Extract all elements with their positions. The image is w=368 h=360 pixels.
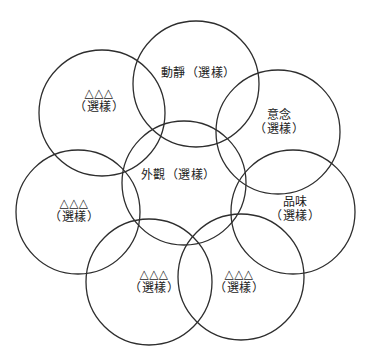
placeholder-left-label-line-2: （選樣） <box>49 210 99 224</box>
appearance-label: 外觀（選樣） <box>141 168 216 182</box>
appearance-label-line-1: 外觀（選樣） <box>141 168 216 182</box>
placeholder-left-label-line-1: △△△ <box>49 196 99 210</box>
placeholder-upper-left-label-line-1: △△△ <box>74 86 124 100</box>
placeholder-bottom-left-label-line-1: △△△ <box>129 267 179 281</box>
placeholder-bottom-right-label: △△△（選樣） <box>214 267 264 295</box>
idea-label-line-2: （選樣） <box>254 122 304 136</box>
motion-label: 動靜（選樣） <box>161 66 236 80</box>
motion-label-line-1: 動靜（選樣） <box>161 66 236 80</box>
placeholder-bottom-left-label-line-2: （選樣） <box>129 281 179 295</box>
taste-label-line-1: 品味 <box>270 195 320 209</box>
taste-label: 品味（選樣） <box>270 195 320 223</box>
placeholder-upper-left-label-line-2: （選樣） <box>74 100 124 114</box>
placeholder-bottom-left-label: △△△（選樣） <box>129 267 179 295</box>
labels-layer: 外觀（選樣）動靜（選樣）意念（選樣）品味（選樣）△△△（選樣）△△△（選樣）△△… <box>0 0 368 360</box>
venn-flower-diagram: 外觀（選樣）動靜（選樣）意念（選樣）品味（選樣）△△△（選樣）△△△（選樣）△△… <box>0 0 368 360</box>
placeholder-left-label: △△△（選樣） <box>49 196 99 224</box>
idea-label: 意念（選樣） <box>254 108 304 136</box>
placeholder-upper-left-label: △△△（選樣） <box>74 86 124 114</box>
taste-label-line-2: （選樣） <box>270 209 320 223</box>
placeholder-bottom-right-label-line-2: （選樣） <box>214 281 264 295</box>
idea-label-line-1: 意念 <box>254 108 304 122</box>
placeholder-bottom-right-label-line-1: △△△ <box>214 267 264 281</box>
